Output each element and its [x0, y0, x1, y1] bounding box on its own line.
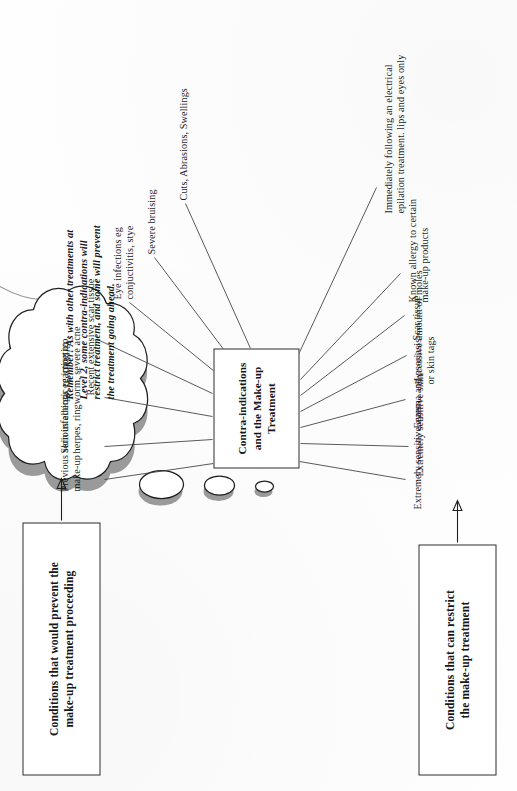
box-center-topic[interactable]: Contra-indications and the Make-up Treat… [213, 348, 299, 468]
label-prevent-3: Eye infections eg conjuctivitis, stye [111, 169, 136, 299]
label-prevent-2: Recent extensive scar tissue [84, 235, 96, 395]
label-restrict-6: Immediately following an electrical epil… [382, 13, 407, 213]
label-prevent-5: Cuts, Abrasions, Swellings [177, 50, 189, 200]
arrow-restrict-to-branch [453, 500, 462, 542]
scanned-page: Conditions that would prevent the make-u… [0, 0, 517, 791]
label-prevent-4: Severe bruising [145, 134, 157, 254]
label-restrict-5: Known allergy to certain make-up product… [406, 152, 431, 302]
leader-lines-restrict [298, 187, 408, 479]
box-conditions-prevent[interactable]: Conditions that would prevent the make-u… [22, 522, 100, 775]
box-conditions-restrict[interactable]: Conditions that can restrict the make-up… [418, 544, 496, 775]
label-prevent-1: Skin infections eg impetigo, herpes, rin… [58, 293, 83, 453]
diagram-stage: Conditions that would prevent the make-u… [0, 0, 517, 791]
thought-bubble-trail [138, 470, 273, 505]
